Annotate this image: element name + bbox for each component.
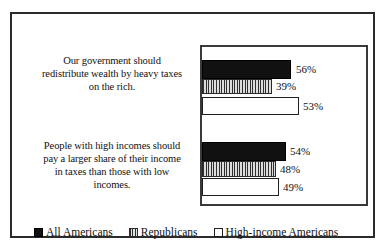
category-label-0: Our government should redistribute wealt…	[24, 54, 200, 93]
legend-label-all-americans: All Americans	[46, 226, 113, 238]
category-label-1-line-1: pay a larger share of their income	[24, 152, 200, 165]
legend-swatch-solid-black-icon	[34, 228, 43, 237]
legend-swatch-hatched-icon	[129, 228, 138, 237]
category-label-0-line-1: redistribute wealth by heavy taxes	[24, 67, 200, 80]
bar-value-group1-high-income-americans: 49%	[283, 182, 303, 193]
bar-group1-republicans	[202, 161, 276, 177]
bar-group0-republicans	[202, 79, 272, 94]
bar-value-group1-all-americans: 54%	[290, 146, 310, 157]
legend-item-all-americans: All Americans	[34, 226, 113, 238]
bar-group0-all-americans	[202, 60, 291, 79]
bar-value-group1-republicans: 48%	[280, 164, 300, 175]
legend-item-high-income-americans: High-income Americans	[214, 226, 339, 238]
category-label-1-line-3: incomes.	[24, 178, 200, 191]
bar-group1-all-americans	[202, 142, 286, 161]
legend-label-high-income-americans: High-income Americans	[226, 226, 339, 238]
bar-group1-high-income-americans	[202, 178, 279, 196]
category-label-1: People with high incomes should pay a la…	[24, 139, 200, 191]
bar-value-group0-republicans: 39%	[276, 81, 296, 92]
chart-legend: All Americans Republicans High-income Am…	[34, 226, 338, 238]
category-label-0-line-2: on the rich.	[24, 80, 200, 93]
bar-value-group0-all-americans: 56%	[296, 64, 316, 75]
figure-border: Our government should redistribute wealt…	[10, 12, 375, 238]
bar-value-group0-high-income-americans: 53%	[303, 101, 323, 112]
legend-swatch-white-icon	[214, 228, 223, 237]
bar-group0-high-income-americans	[202, 97, 299, 115]
category-label-1-line-2: in taxes than those with low	[24, 165, 200, 178]
legend-item-republicans: Republicans	[129, 226, 198, 238]
plot-area: 56% 39% 53% 54% 48% 49%	[200, 45, 368, 206]
chart-figure: Our government should redistribute wealt…	[0, 0, 389, 251]
category-label-1-line-0: People with high incomes should	[24, 139, 200, 152]
legend-label-republicans: Republicans	[141, 226, 198, 238]
category-label-0-line-0: Our government should	[24, 54, 200, 67]
